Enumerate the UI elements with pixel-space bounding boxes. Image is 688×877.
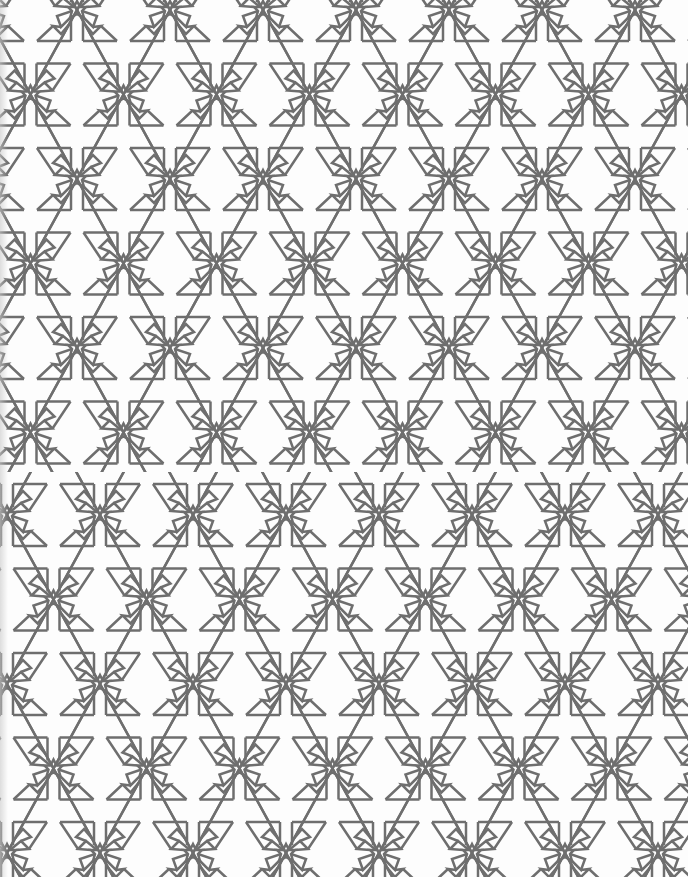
upper-tiling	[0, 0, 688, 472]
lower-pattern-section	[0, 472, 688, 877]
lower-tiling	[0, 472, 688, 877]
pattern-canvas	[0, 0, 688, 877]
upper-pattern-section	[0, 0, 688, 472]
left-edge-shadow	[0, 0, 8, 877]
